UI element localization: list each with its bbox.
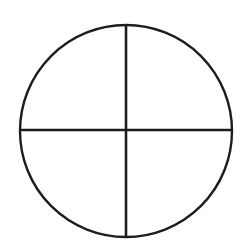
quadrant-circle-diagram — [0, 0, 247, 242]
figure-canvas: Circle divided into four quadrants A pla… — [0, 0, 247, 242]
